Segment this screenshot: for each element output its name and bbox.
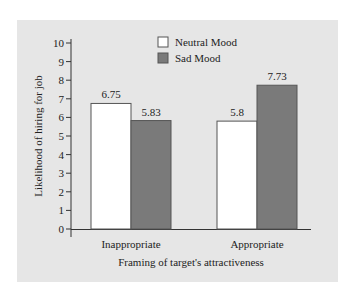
y-tick-label: 1 <box>59 204 65 216</box>
legend-swatch <box>158 53 168 63</box>
bar-value-label: 6.75 <box>101 88 121 100</box>
bar-chart: 0123456789106.755.83Inappropriate5.87.73… <box>0 0 357 299</box>
y-tick-label: 4 <box>59 149 65 161</box>
y-tick-label: 5 <box>59 130 65 142</box>
y-tick-label: 2 <box>59 186 65 198</box>
bar-value-label: 7.73 <box>267 70 287 82</box>
legend-label: Sad Mood <box>175 52 221 64</box>
x-axis-title: Framing of target's attractiveness <box>118 256 264 268</box>
legend-swatch <box>158 37 168 47</box>
y-axis-title: Likelihood of hiring for job <box>32 75 44 197</box>
y-tick-label: 3 <box>59 167 65 179</box>
y-tick-label: 10 <box>53 37 65 49</box>
y-tick-label: 0 <box>59 223 65 235</box>
bar-neutral-mood-inappropriate <box>91 103 131 229</box>
y-tick-label: 7 <box>59 93 65 105</box>
bar-sad-mood-inappropriate <box>131 121 171 229</box>
legend-label: Neutral Mood <box>175 36 238 48</box>
bar-value-label: 5.83 <box>141 106 161 118</box>
x-category-label: Inappropriate <box>101 238 160 250</box>
y-tick-label: 8 <box>59 74 65 86</box>
y-tick-label: 9 <box>59 56 65 68</box>
y-tick-label: 6 <box>59 111 65 123</box>
bar-value-label: 5.8 <box>230 106 244 118</box>
bar-neutral-mood-appropriate <box>217 121 257 229</box>
bar-sad-mood-appropriate <box>257 85 297 229</box>
x-category-label: Appropriate <box>230 238 283 250</box>
